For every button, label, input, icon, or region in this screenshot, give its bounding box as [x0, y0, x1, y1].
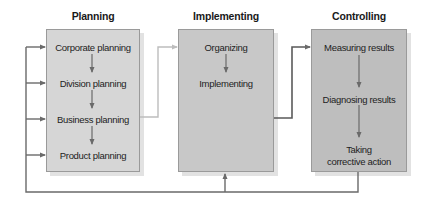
- implementing-to-controlling-arrow: [274, 47, 310, 118]
- connector-lines: [0, 0, 428, 202]
- feedback-loop: [26, 47, 358, 192]
- planning-to-implementing-arrow: [140, 47, 177, 117]
